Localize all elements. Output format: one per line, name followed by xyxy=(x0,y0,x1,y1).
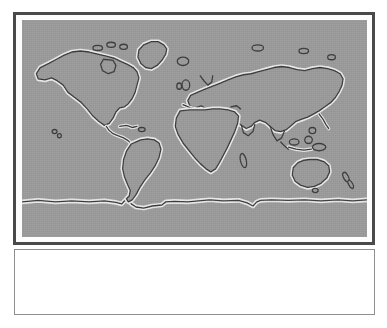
island-new-guinea xyxy=(312,143,325,150)
island-arctic-d xyxy=(299,48,309,53)
island-hawaii-b xyxy=(57,134,61,138)
island-ireland xyxy=(177,83,182,89)
island-hispaniola xyxy=(138,127,145,131)
island-sulawesi xyxy=(305,136,313,143)
island-arctic-b xyxy=(107,42,116,47)
island-arctic-a xyxy=(93,45,103,50)
figure-root: .halo { fill: none; stroke: #e9e9e9; str… xyxy=(0,0,387,328)
caption-text xyxy=(15,250,374,262)
map-frame: .halo { fill: none; stroke: #e9e9e9; str… xyxy=(13,12,375,245)
island-novaya-zemlya xyxy=(252,45,264,51)
map-mat: .halo { fill: none; stroke: #e9e9e9; str… xyxy=(16,15,372,242)
island-philippines xyxy=(309,127,316,133)
island-hawaii-a xyxy=(52,130,57,134)
island-iceland xyxy=(177,57,189,65)
world-map-svg: .halo { fill: none; stroke: #e9e9e9; str… xyxy=(22,20,367,237)
island-borneo xyxy=(289,139,299,145)
island-tasmania xyxy=(312,188,318,192)
island-arctic-e xyxy=(328,55,336,60)
map-canvas[interactable]: .halo { fill: none; stroke: #e9e9e9; str… xyxy=(22,20,367,237)
island-arctic-c xyxy=(120,44,128,49)
island-great-britain xyxy=(182,80,190,90)
caption-panel[interactable] xyxy=(14,249,375,315)
